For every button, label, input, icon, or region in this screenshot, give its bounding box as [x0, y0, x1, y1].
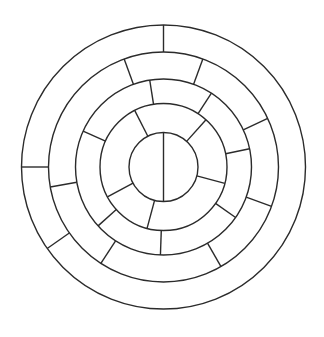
spoke-ring-2-5	[98, 209, 116, 225]
spoke-ring-3-6	[50, 182, 77, 187]
spoke-ring-3-2	[243, 118, 267, 129]
spoke-ring-3-1	[194, 59, 203, 84]
spoke-ring-2-4	[160, 230, 161, 254]
spoke-ring-1-1	[187, 120, 206, 142]
spoke-ring-3-4	[208, 243, 222, 266]
spoke-ring-2-2	[226, 149, 250, 154]
spoke-ring-2-0	[150, 80, 154, 104]
spoke-ring-2-3	[216, 203, 236, 217]
spoke-ring-1-4	[107, 183, 133, 197]
concentric-ring-diagram	[0, 0, 324, 337]
spoke-ring-3-3	[246, 197, 271, 206]
spoke-ring-1-0	[135, 110, 148, 136]
diagram-canvas	[0, 0, 324, 337]
spoke-ring-3-5	[101, 241, 116, 264]
spoke-ring-2-6	[83, 131, 105, 141]
ring-spokes-group	[22, 25, 272, 267]
spoke-ring-1-2	[197, 176, 225, 184]
spoke-ring-2-1	[198, 93, 211, 114]
spoke-ring-1-3	[147, 200, 155, 228]
spoke-ring-4-2	[47, 233, 69, 248]
spoke-ring-3-0	[124, 59, 133, 84]
